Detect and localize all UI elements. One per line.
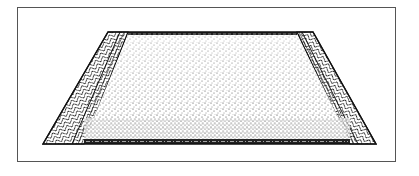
rug-illustration xyxy=(0,0,419,176)
